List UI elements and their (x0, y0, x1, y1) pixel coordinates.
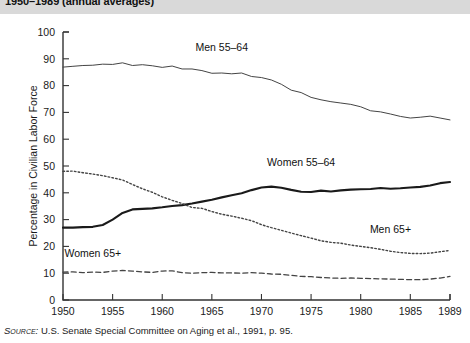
x-tick-label: 1950 (51, 305, 75, 317)
y-tick-label: 100 (37, 26, 55, 38)
y-tick-label: 40 (43, 187, 55, 199)
series-line (63, 63, 450, 120)
y-tick-label: 90 (43, 53, 55, 65)
y-tick-label: 70 (43, 106, 55, 118)
x-axis-ticks: 195019551960196519701975198019851989 (51, 294, 462, 317)
source-note: Source: U.S. Senate Special Committee on… (4, 325, 293, 336)
series-label: Women 55–64 (267, 156, 335, 168)
y-tick-label: 80 (43, 79, 55, 91)
source-citation: U.S. Senate Special Committee on Aging e… (38, 325, 293, 336)
y-tick-label: 0 (49, 294, 55, 306)
x-tick-label: 1960 (151, 305, 175, 317)
figure: 1950–1989 (annual averages) Percentage i… (0, 0, 470, 343)
y-tick-label: 50 (43, 160, 55, 172)
series-label: Women 65+ (64, 247, 121, 259)
y-tick-label: 10 (43, 267, 55, 279)
y-tick-label: 60 (43, 133, 55, 145)
x-tick-label: 1980 (349, 305, 373, 317)
x-tick-label: 1989 (438, 305, 462, 317)
y-tick-label: 30 (43, 213, 55, 225)
series-line (63, 271, 450, 280)
source-label: Source: (4, 325, 38, 336)
y-tick-label: 20 (43, 240, 55, 252)
x-tick-label: 1985 (399, 305, 423, 317)
series-line (63, 182, 450, 228)
x-tick-label: 1975 (299, 305, 323, 317)
series-label: Men 55–64 (195, 41, 248, 53)
x-tick-label: 1965 (200, 305, 224, 317)
line-chart-plot: 0102030405060708090100 19501955196019651… (0, 0, 470, 343)
x-tick-label: 1955 (101, 305, 125, 317)
series-line (63, 171, 450, 254)
x-tick-label: 1970 (250, 305, 274, 317)
y-axis-ticks: 0102030405060708090100 (37, 26, 69, 306)
axes (63, 32, 450, 300)
series-label: Men 65+ (370, 223, 411, 235)
